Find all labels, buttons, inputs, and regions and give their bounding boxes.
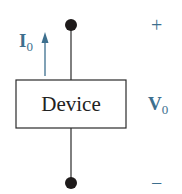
device-label-text: Device: [41, 92, 100, 117]
current-subscript: 0: [26, 39, 33, 54]
device-label: Device: [16, 80, 126, 128]
voltage-subscript: 0: [162, 102, 169, 117]
voltage-minus-sign: −: [151, 172, 162, 194]
bottom-terminal: [65, 177, 77, 189]
voltage-plus-sign: +: [151, 14, 162, 37]
voltage-symbol: V: [148, 93, 162, 114]
current-arrow-head-icon: [42, 32, 49, 43]
top-terminal: [65, 19, 77, 31]
current-label: I0: [19, 30, 33, 52]
voltage-label: V0: [148, 93, 168, 115]
